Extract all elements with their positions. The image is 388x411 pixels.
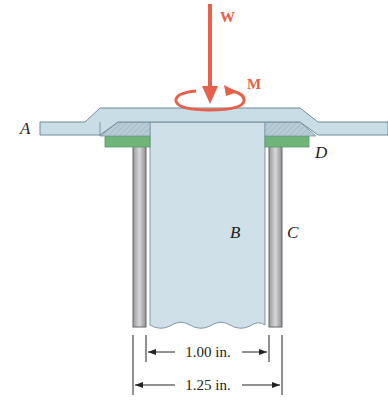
dim-inner: 1.00 in. [185, 344, 230, 360]
label-a: A [19, 119, 31, 138]
label-m: M [247, 76, 261, 92]
rod-b [150, 122, 265, 328]
label-d: D [314, 143, 328, 162]
dim-outer: 1.25 in. [185, 377, 230, 393]
load-w-arrow [202, 4, 218, 104]
label-c: C [287, 223, 299, 242]
label-w: W [220, 9, 235, 25]
label-b: B [230, 223, 241, 242]
diagram-canvas: W M A D B C 1.00 in. 1.25 in. [0, 0, 388, 411]
